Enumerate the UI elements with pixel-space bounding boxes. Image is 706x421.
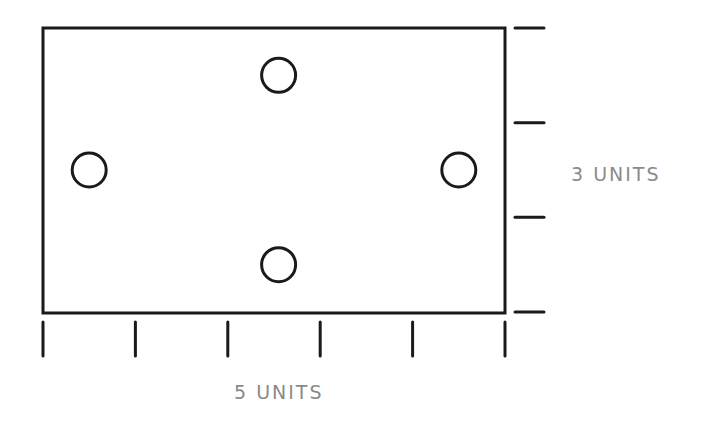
diagram-canvas [0, 0, 706, 421]
width-scale-ticks [43, 322, 505, 356]
hole-right [442, 153, 476, 187]
rectangle-plate [43, 28, 505, 313]
height-label: 3 UNITS [571, 163, 661, 185]
hole-top [262, 58, 296, 92]
hole-left [72, 153, 106, 187]
width-label: 5 UNITS [234, 381, 324, 403]
height-scale-ticks [515, 28, 544, 312]
hole-bottom [262, 248, 296, 282]
holes-group [72, 58, 476, 281]
